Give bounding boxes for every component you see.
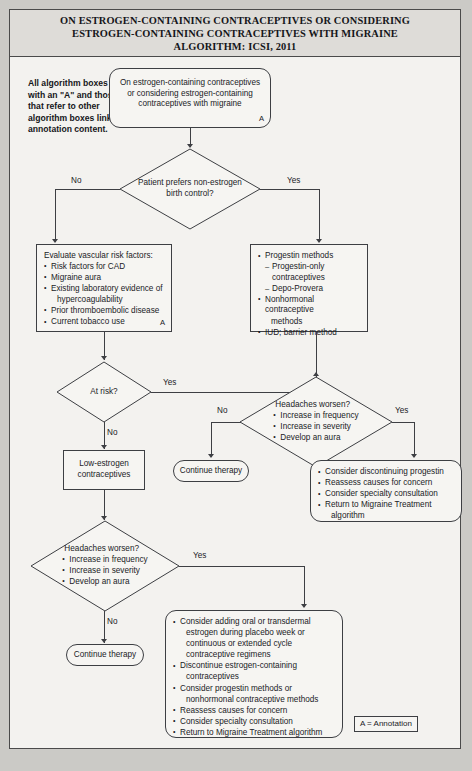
final-recommendations[interactable]: Consider adding oral or transdermal estr…: [165, 610, 343, 738]
final-item-9: Consider specialty consultation: [173, 717, 335, 728]
flowchart-page: ON ESTROGEN-CONTAINING CONTRACEPTIVES OR…: [0, 0, 472, 771]
final-item-2: continuous or extended cycle: [173, 639, 335, 650]
connector-decision1-no: [55, 189, 120, 190]
final-item-0: Consider adding oral or transdermal: [173, 617, 335, 628]
final-item-7: nonhormonal contraceptive methods: [173, 695, 335, 706]
arrow-vascular-to-atrisk: [101, 356, 107, 360]
start-line-2: or considering estrogen-containing: [116, 89, 264, 100]
final-list: Consider adding oral or transdermal estr…: [173, 617, 335, 739]
edge-label-yes-2: Yes: [163, 378, 176, 387]
title-line-3: ALGORITHM: ICSI, 2011: [174, 40, 297, 53]
progestin-item-0: Progestin methods: [258, 251, 360, 262]
connector-decision1-yes-down: [319, 189, 320, 242]
edge-label-no-3: No: [217, 406, 227, 415]
title-line-1: ON ESTROGEN-CONTAINING CONTRACEPTIVES OR…: [60, 14, 410, 27]
edge-label-yes-4: Yes: [193, 551, 206, 560]
vascular-item-3: hypercoagulability: [44, 295, 164, 306]
start-node[interactable]: On estrogen-containing contraceptives or…: [109, 68, 271, 128]
algorithm-sheet: ON ESTROGEN-CONTAINING CONTRACEPTIVES OR…: [9, 9, 461, 749]
decision-headaches-worsen-right[interactable]: Headaches worsen? Increase in frequency …: [239, 376, 393, 468]
vascular-item-0: Risk factors for CAD: [44, 262, 164, 273]
continue-therapy-lower-label: Continue therapy: [74, 650, 136, 661]
final-item-10: Return to Migraine Treatment algorithm: [173, 728, 335, 739]
final-item-3: contraceptive regimens: [173, 650, 335, 661]
edge-label-no-1: No: [71, 176, 81, 185]
start-line-3: contraceptives with migraine: [116, 99, 264, 110]
consider-discontinuing-progestin[interactable]: Consider discontinuing progestin Reasses…: [310, 460, 462, 522]
progestin-item-5: IUD; barrier method: [258, 328, 360, 339]
progestin-item-1: Progestin-only contraceptives: [258, 262, 360, 283]
arrow-headaches-right-yes: [411, 454, 417, 458]
continue-therapy-upper-label: Continue therapy: [180, 466, 242, 477]
edge-label-no-4: No: [107, 617, 117, 626]
legend-annotation: A = Annotation: [354, 716, 418, 732]
progestin-item-3: Nonhormonal contraceptive: [258, 295, 360, 316]
edge-label-no-2: No: [107, 428, 117, 437]
low-estrogen-line-1: Low-estrogen: [78, 459, 131, 470]
evaluate-vascular-risk[interactable]: Evaluate vascular risk factors: Risk fac…: [36, 244, 172, 332]
annotation-marker: A: [259, 114, 264, 125]
edge-label-yes-1: Yes: [287, 176, 300, 185]
discontinue-item-2: Consider specialty consultation: [318, 489, 454, 500]
final-item-1: estrogen during placebo week or: [173, 628, 335, 639]
page-title: ON ESTROGEN-CONTAINING CONTRACEPTIVES OR…: [10, 10, 460, 57]
progestin-methods[interactable]: Progestin methods Progestin-only contrac…: [250, 244, 368, 332]
vascular-item-5: Current tobacco use: [44, 317, 164, 328]
progestin-item-2: Depo-Provera: [258, 284, 360, 295]
arrow-headaches-left-no: [101, 639, 107, 643]
final-item-4: Discontinue estrogen-containing: [173, 661, 335, 672]
continue-therapy-upper[interactable]: Continue therapy: [173, 460, 249, 482]
final-item-5: contraceptives: [173, 672, 335, 683]
low-estrogen-line-2: contraceptives: [78, 470, 131, 481]
discontinue-item-0: Consider discontinuing progestin: [318, 467, 454, 478]
discontinue-item-4: algorithm: [318, 511, 454, 522]
annotation-marker-vascular: A: [160, 318, 165, 329]
connector-headaches-right-yes-down: [414, 422, 415, 457]
vascular-list: Risk factors for CAD Migraine aura Exist…: [44, 262, 164, 328]
vascular-item-4: Prior thromboembolic disease: [44, 306, 164, 317]
connector-decision1-no-down: [55, 189, 56, 242]
discontinue-item-3: Return to Migraine Treatment: [318, 500, 454, 511]
connector-headaches-right-yes: [392, 422, 415, 423]
continue-therapy-lower[interactable]: Continue therapy: [66, 644, 144, 666]
final-item-6: Consider progestin methods or: [173, 684, 335, 695]
connector-progestin-down: [316, 332, 317, 358]
connector-decision1-yes: [260, 189, 320, 190]
arrow-headaches-left-yes: [301, 604, 307, 608]
vascular-item-1: Migraine aura: [44, 273, 164, 284]
arrow-decision1-no: [52, 239, 58, 243]
discontinue-item-1: Reassess causes for concern: [318, 478, 454, 489]
vascular-item-2: Existing laboratory evidence of: [44, 284, 164, 295]
vascular-heading: Evaluate vascular risk factors:: [44, 251, 164, 262]
connector-headaches-right-no: [211, 422, 241, 423]
title-line-2: ESTROGEN-CONTAINING CONTRACEPTIVES WITH …: [72, 27, 398, 40]
arrow-atrisk-no: [101, 445, 107, 449]
arrow-decision1-yes: [316, 239, 322, 243]
progestin-item-4: methods: [258, 317, 360, 328]
arrow-headaches-right-no: [208, 454, 214, 458]
connector-headaches-left-yes: [179, 566, 305, 567]
low-estrogen-contraceptives[interactable]: Low-estrogen contraceptives: [63, 450, 145, 490]
progestin-list: Progestin methods Progestin-only contrac…: [258, 251, 360, 338]
decision-at-risk[interactable]: At risk?: [56, 361, 152, 423]
discontinue-list: Consider discontinuing progestin Reasses…: [318, 467, 454, 522]
decision-patient-prefers[interactable]: Patient prefers non-estrogen birth contr…: [119, 148, 261, 230]
decision-headaches-worsen-left[interactable]: Headaches worsen? Increase in frequency …: [30, 520, 180, 612]
connector-headaches-left-yes-down: [304, 566, 305, 607]
connector-headaches-right-no-down: [211, 422, 212, 457]
edge-label-yes-3: Yes: [395, 406, 408, 415]
final-item-8: Reassess causes for concern: [173, 706, 335, 717]
start-line-1: On estrogen-containing contraceptives: [116, 78, 264, 89]
